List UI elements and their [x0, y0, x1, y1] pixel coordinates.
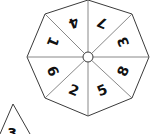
segment-divider: [88, 14, 132, 57]
segment-label: 5: [94, 81, 109, 100]
segment-label: 4: [66, 14, 81, 33]
segment-divider: [45, 57, 88, 98]
segment-label: 3: [114, 34, 133, 49]
spinner-figure: 73852614 3: [0, 0, 153, 134]
segment-label: 7: [94, 14, 109, 33]
segment-label: 8: [114, 63, 133, 78]
triangle-spinner-partial: 3: [0, 104, 30, 134]
segment-label: 1: [44, 34, 63, 49]
center-hub: [83, 52, 93, 62]
segment-label: 2: [66, 81, 81, 100]
octagon-spinner: 73852614: [27, 0, 149, 116]
triangle-label: 3: [7, 125, 17, 134]
segment-label: 6: [44, 63, 63, 78]
